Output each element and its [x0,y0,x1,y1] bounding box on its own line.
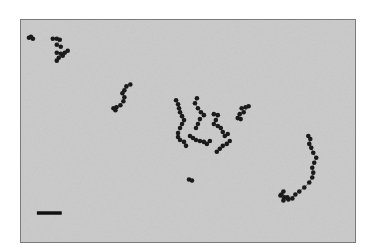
particle [184,144,189,149]
particle [219,126,224,131]
particle [177,106,182,111]
particle [121,99,126,104]
particle [190,178,195,183]
particle [202,113,207,118]
particle [224,142,229,147]
particle [118,103,123,108]
particle [312,160,317,165]
particle [308,137,313,142]
particle [239,106,244,111]
particle [178,126,183,131]
scale-bar [37,211,62,214]
particle [221,130,226,135]
particle [241,110,246,115]
particle [212,112,217,117]
particle [180,122,185,127]
particle [310,165,315,170]
particle [113,108,118,113]
particle [212,122,217,127]
particle [281,198,286,203]
particle [198,139,203,144]
particle [246,104,251,109]
particle [216,113,221,118]
particle [302,185,307,190]
particle [215,150,220,155]
particle [281,189,286,194]
particle [31,37,36,42]
particle [196,106,201,111]
background-grain [21,20,355,242]
particle [290,196,295,201]
particle [124,84,129,89]
micrograph-image [20,19,356,243]
micrograph-canvas [21,20,355,242]
particle [128,82,133,87]
particle [194,126,199,131]
particle [174,98,179,103]
particle [182,118,187,123]
particle [65,48,70,53]
particle [208,139,213,144]
particle [57,38,62,43]
particle [194,138,199,143]
particle [293,192,298,197]
particle [193,101,198,106]
particle [198,117,203,122]
particle [214,118,219,123]
particle [307,142,312,147]
particle [54,58,59,63]
particle [285,195,290,200]
particle [58,44,63,49]
particle [225,132,230,137]
particle [180,114,185,119]
particle [54,42,59,47]
particle [307,180,312,185]
particle [237,112,242,117]
particle [122,95,127,100]
particle [309,146,314,151]
particle [176,131,181,136]
particle [297,189,302,194]
particle [54,50,59,55]
particle [51,37,56,42]
particle [310,175,315,180]
particle [178,138,183,143]
particle [195,96,200,101]
particle [238,117,243,122]
particle [314,155,319,160]
particle [278,193,283,198]
particle [196,122,201,127]
particle [311,170,316,175]
particle [178,110,183,115]
particle [60,53,65,58]
particle [176,102,181,107]
particle [120,91,125,96]
particle [311,151,316,156]
particle [182,140,187,145]
